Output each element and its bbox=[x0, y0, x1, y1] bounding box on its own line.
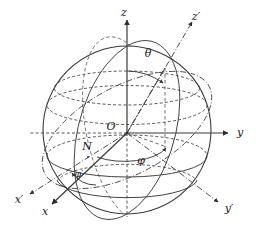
origin-point-marker bbox=[126, 132, 129, 135]
meridian-primed-back bbox=[127, 41, 180, 214]
axis-y-label: y bbox=[236, 126, 244, 139]
axis-z-label: z bbox=[120, 6, 127, 19]
axis-y-prime-label: y′ bbox=[224, 202, 234, 215]
axis-x-label: x bbox=[42, 205, 49, 218]
figure-container: z z′ y y′ x x′ O N θ φ φ′ bbox=[0, 0, 256, 239]
axis-x-prime-line bbox=[30, 133, 127, 194]
axis-x-prime-label: x′ bbox=[15, 193, 24, 206]
projection-radial-dashed bbox=[127, 133, 167, 147]
primed-equator-front bbox=[61, 74, 212, 189]
axis-z-prime-label: z′ bbox=[191, 10, 201, 23]
origin-label: O bbox=[106, 120, 115, 133]
node-label: N bbox=[81, 140, 92, 153]
spherical-coordinate-diagram: z z′ y y′ x x′ O N θ φ φ′ bbox=[0, 0, 256, 239]
axis-y-prime-line bbox=[127, 133, 218, 202]
angle-phi-label: φ bbox=[137, 154, 145, 167]
angle-theta-label: θ bbox=[145, 47, 152, 60]
angle-phi-prime-label: φ′ bbox=[75, 168, 85, 179]
node-point-marker bbox=[87, 156, 89, 158]
